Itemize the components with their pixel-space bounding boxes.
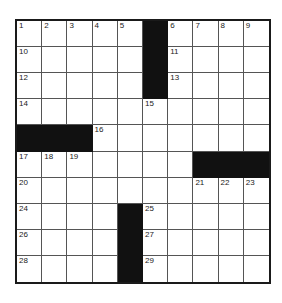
crossword-cell[interactable] [244, 204, 269, 230]
crossword-cell[interactable] [193, 230, 218, 256]
crossword-cell[interactable]: 2 [42, 21, 67, 47]
crossword-cell[interactable] [219, 125, 244, 151]
crossword-cell[interactable] [168, 178, 193, 204]
crossword-cell[interactable] [67, 178, 92, 204]
crossword-cell[interactable] [67, 73, 92, 99]
black-square [219, 152, 244, 178]
crossword-cell[interactable] [93, 256, 118, 282]
crossword-cell[interactable] [193, 125, 218, 151]
crossword-cell[interactable]: 23 [244, 178, 269, 204]
crossword-cell[interactable] [193, 204, 218, 230]
crossword-cell[interactable]: 11 [168, 47, 193, 73]
crossword-cell[interactable]: 17 [17, 152, 42, 178]
crossword-cell[interactable] [244, 230, 269, 256]
crossword-cell[interactable] [67, 99, 92, 125]
crossword-cell[interactable] [67, 47, 92, 73]
crossword-cell[interactable] [244, 73, 269, 99]
crossword-cell[interactable]: 12 [17, 73, 42, 99]
crossword-cell[interactable] [67, 230, 92, 256]
crossword-cell[interactable] [193, 99, 218, 125]
clue-number: 28 [19, 257, 28, 265]
crossword-cell[interactable]: 5 [118, 21, 143, 47]
crossword-cell[interactable] [219, 204, 244, 230]
crossword-cell[interactable] [219, 230, 244, 256]
crossword-cell[interactable]: 27 [143, 230, 168, 256]
crossword-cell[interactable] [42, 99, 67, 125]
clue-number: 17 [19, 153, 28, 161]
crossword-cell[interactable] [193, 47, 218, 73]
crossword-cell[interactable] [244, 47, 269, 73]
crossword-cell[interactable] [93, 178, 118, 204]
crossword-cell[interactable] [67, 256, 92, 282]
crossword-cell[interactable]: 1 [17, 21, 42, 47]
crossword-cell[interactable] [244, 99, 269, 125]
crossword-cell[interactable]: 13 [168, 73, 193, 99]
crossword-cell[interactable] [219, 47, 244, 73]
crossword-cell[interactable] [244, 256, 269, 282]
crossword-cell[interactable] [143, 125, 168, 151]
crossword-cell[interactable] [93, 47, 118, 73]
crossword-cell[interactable]: 8 [219, 21, 244, 47]
crossword-cell[interactable] [42, 178, 67, 204]
crossword-cell[interactable] [118, 99, 143, 125]
crossword-cell[interactable]: 25 [143, 204, 168, 230]
crossword-cell[interactable]: 10 [17, 47, 42, 73]
crossword-cell[interactable] [168, 125, 193, 151]
crossword-cell[interactable] [93, 73, 118, 99]
crossword-cell[interactable] [193, 73, 218, 99]
crossword-cell[interactable] [193, 256, 218, 282]
crossword-cell[interactable]: 19 [67, 152, 92, 178]
black-square [42, 125, 67, 151]
crossword-cell[interactable]: 18 [42, 152, 67, 178]
crossword-cell[interactable] [93, 230, 118, 256]
crossword-cell[interactable]: 3 [67, 21, 92, 47]
black-square [118, 256, 143, 282]
crossword-cell[interactable]: 28 [17, 256, 42, 282]
crossword-cell[interactable] [42, 47, 67, 73]
black-square [118, 230, 143, 256]
crossword-cell[interactable] [42, 230, 67, 256]
crossword-cell[interactable] [143, 152, 168, 178]
crossword-cell[interactable] [219, 99, 244, 125]
crossword-cell[interactable] [93, 99, 118, 125]
crossword-cell[interactable] [67, 204, 92, 230]
crossword-cell[interactable] [143, 178, 168, 204]
crossword-cell[interactable] [168, 204, 193, 230]
crossword-cell[interactable]: 29 [143, 256, 168, 282]
crossword-cell[interactable] [219, 73, 244, 99]
crossword-cell[interactable] [93, 152, 118, 178]
crossword-cell[interactable]: 7 [193, 21, 218, 47]
crossword-cell[interactable]: 21 [193, 178, 218, 204]
crossword-cell[interactable]: 14 [17, 99, 42, 125]
crossword-cell[interactable] [168, 99, 193, 125]
crossword-cell[interactable] [118, 178, 143, 204]
black-square [143, 47, 168, 73]
crossword-cell[interactable]: 9 [244, 21, 269, 47]
crossword-cell[interactable] [168, 152, 193, 178]
crossword-cell[interactable] [42, 204, 67, 230]
crossword-cell[interactable]: 15 [143, 99, 168, 125]
crossword-cell[interactable]: 26 [17, 230, 42, 256]
crossword-cell[interactable]: 16 [93, 125, 118, 151]
clue-number: 15 [145, 100, 154, 108]
crossword-cell[interactable] [93, 204, 118, 230]
crossword-cell[interactable] [219, 256, 244, 282]
clue-number: 16 [95, 126, 104, 134]
crossword-cell[interactable]: 4 [93, 21, 118, 47]
crossword-cell[interactable] [168, 256, 193, 282]
crossword-cell[interactable]: 6 [168, 21, 193, 47]
clue-number: 19 [69, 153, 78, 161]
crossword-cell[interactable] [118, 73, 143, 99]
crossword-cell[interactable]: 20 [17, 178, 42, 204]
crossword-cell[interactable] [118, 125, 143, 151]
clue-number: 10 [19, 48, 28, 56]
crossword-cell[interactable]: 24 [17, 204, 42, 230]
crossword-cell[interactable] [118, 152, 143, 178]
crossword-cell[interactable] [244, 125, 269, 151]
crossword-cell[interactable] [42, 256, 67, 282]
black-square [17, 125, 42, 151]
crossword-cell[interactable] [42, 73, 67, 99]
crossword-cell[interactable] [118, 47, 143, 73]
crossword-cell[interactable] [168, 230, 193, 256]
crossword-cell[interactable]: 22 [219, 178, 244, 204]
